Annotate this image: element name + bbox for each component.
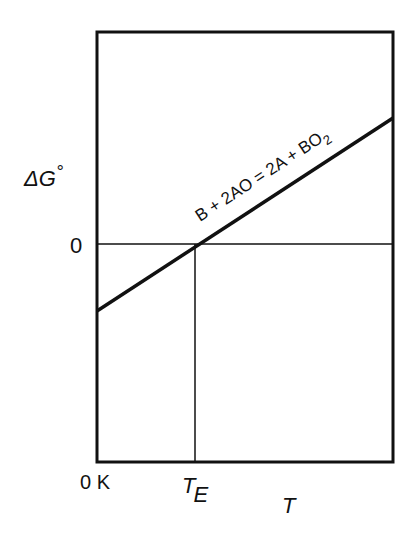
y-tick-zero: 0 <box>70 233 82 258</box>
x-tick-origin: 0 K <box>80 471 111 493</box>
reaction-line <box>97 118 393 311</box>
x-axis-label: T <box>282 493 297 518</box>
reaction-label: B + 2AO = 2A + BO2 <box>192 125 335 229</box>
plot-frame <box>97 32 393 462</box>
chart: B + 2AO = 2A + BO2 ΔG° 0 0 K TE T <box>0 0 415 544</box>
x-tick-te: TE <box>182 473 208 507</box>
y-axis-label: ΔG° <box>23 162 63 191</box>
